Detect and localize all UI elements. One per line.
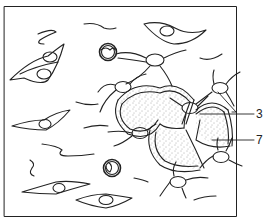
spindle-cell (76, 194, 132, 208)
fiber (84, 125, 108, 128)
round-cell (100, 44, 117, 61)
fiber (76, 102, 98, 105)
round-cell (104, 160, 121, 177)
spindle-cell (10, 44, 64, 83)
matrix-region (196, 105, 230, 146)
spindle-cell (22, 181, 90, 194)
fiber (42, 144, 94, 156)
stellate-cell (116, 50, 186, 86)
diagram (0, 0, 266, 224)
label-3: 3 (256, 108, 263, 120)
fiber (84, 24, 116, 30)
fiber (30, 160, 34, 176)
label-7: 7 (256, 134, 263, 146)
fiber (194, 196, 216, 200)
spindle-cell (144, 23, 206, 44)
fiber (134, 178, 148, 182)
fiber (38, 30, 56, 44)
fiber (200, 54, 222, 59)
stellate-cell (196, 70, 240, 106)
spindle-cell (12, 110, 70, 130)
matrix-region (117, 86, 192, 135)
